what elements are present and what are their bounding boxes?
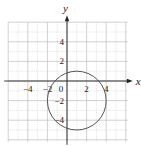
y-tick-label: 4 [60, 37, 65, 47]
y-tick-label: 2 [60, 56, 65, 66]
grid [8, 22, 128, 142]
coordinate-plane: x y −4−202442−2−4 [0, 0, 141, 146]
x-tick-label: −2 [43, 84, 53, 94]
y-axis-arrow-icon [65, 15, 69, 21]
x-tick-label: −4 [23, 84, 33, 94]
x-axis-label: x [135, 75, 141, 87]
axes: x y [4, 2, 141, 145]
x-tick-label: 0 [59, 84, 64, 94]
x-axis-arrow-icon [127, 79, 133, 83]
x-tick-label: 2 [84, 84, 89, 94]
y-tick-label: −4 [54, 115, 64, 125]
y-axis-label: y [62, 2, 68, 14]
y-tick-label: −2 [54, 96, 64, 106]
